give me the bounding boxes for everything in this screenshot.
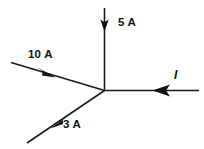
branch-line-upper-left bbox=[11, 63, 105, 91]
label-upper-left-branch-current: 10 A bbox=[28, 49, 53, 61]
label-right-branch-current: I bbox=[174, 69, 178, 81]
label-lower-left-branch-current: 3 A bbox=[63, 119, 81, 131]
arrow-head-upper-left-into-junction-icon bbox=[38, 68, 56, 78]
current-junction-figure: 5 A 10 A 3 A I bbox=[0, 0, 204, 149]
label-top-branch-current: 5 A bbox=[118, 17, 136, 29]
branch-line-lower-left bbox=[27, 91, 105, 144]
